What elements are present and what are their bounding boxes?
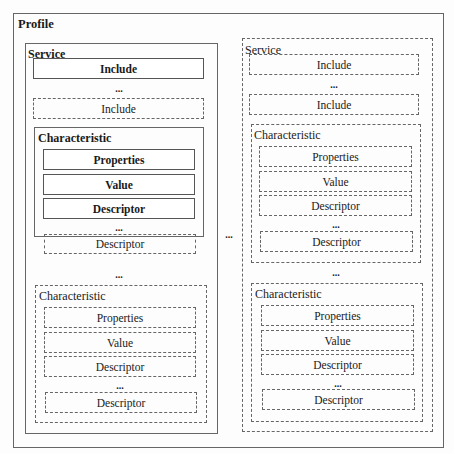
left-char2-descriptor-2: Descriptor (45, 392, 197, 413)
left-char1-properties: Properties (43, 149, 195, 170)
left-char2-properties: Properties (44, 307, 196, 328)
left-char1-descriptor: Descriptor (43, 198, 195, 219)
right-char2-ellipsis: ... (323, 380, 353, 388)
right-char2-value: Value (261, 330, 414, 351)
left-char1-value: Value (43, 174, 195, 195)
right-include-2: Include (249, 94, 419, 115)
right-char2-descriptor: Descriptor (261, 354, 414, 375)
left-characteristic-ellipsis: ... (104, 271, 134, 279)
left-characteristic-1-label: Characteristic (38, 131, 111, 145)
left-characteristic-2-label: Characteristic (39, 289, 106, 303)
left-char2-descriptor: Descriptor (44, 356, 196, 377)
left-include-1: Include (33, 58, 204, 79)
right-char1-descriptor-2: Descriptor (260, 231, 413, 252)
right-char1-value: Value (259, 171, 412, 192)
right-char2-properties: Properties (261, 305, 414, 326)
right-include-1: Include (249, 54, 419, 75)
left-char1-ellipsis: ... (104, 224, 134, 232)
right-char1-descriptor: Descriptor (259, 195, 412, 216)
left-char2-ellipsis: ... (105, 382, 135, 390)
profile-label: Profile (18, 17, 54, 31)
right-char1-ellipsis: ... (321, 221, 351, 229)
left-char1-descriptor-2: Descriptor (44, 234, 196, 254)
right-characteristic-ellipsis: ... (321, 269, 351, 277)
left-include-2: Include (33, 98, 204, 119)
left-char2-value: Value (44, 332, 196, 353)
right-include-ellipsis: ... (319, 81, 349, 89)
right-characteristic-1-label: Characteristic (254, 128, 321, 142)
left-include-ellipsis: ... (104, 85, 134, 93)
right-char2-descriptor-2: Descriptor (262, 389, 415, 410)
right-char1-properties: Properties (259, 146, 412, 167)
services-ellipsis: ... (216, 231, 242, 239)
right-characteristic-2-label: Characteristic (255, 287, 322, 301)
